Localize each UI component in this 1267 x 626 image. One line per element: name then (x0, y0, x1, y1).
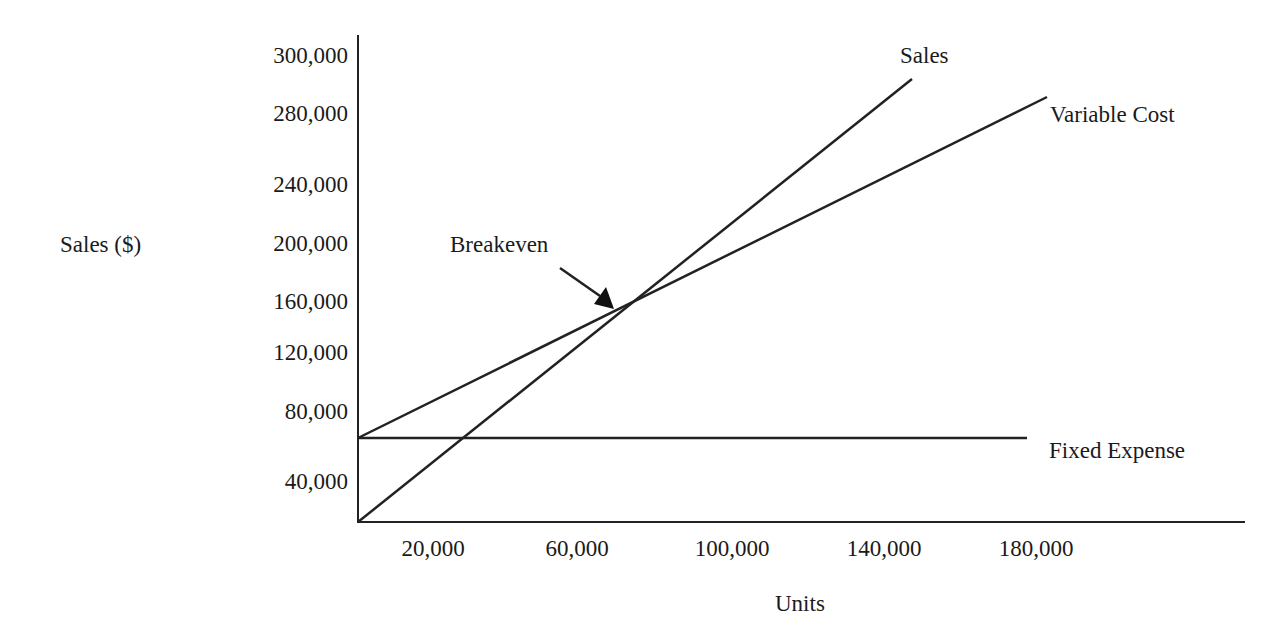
x-tick-label: 100,000 (695, 537, 770, 560)
fixed-expense-line-label: Fixed Expense (1049, 439, 1185, 462)
x-tick-label: 20,000 (401, 537, 464, 560)
variable-cost-line-label: Variable Cost (1050, 103, 1175, 126)
sales-line-label: Sales (900, 44, 949, 67)
x-axis-label: Units (775, 592, 825, 615)
y-tick-label: 300,000 (228, 44, 348, 67)
y-tick-label: 80,000 (228, 400, 348, 423)
x-tick-label: 180,000 (999, 537, 1074, 560)
y-tick-label: 40,000 (228, 470, 348, 493)
y-tick-label: 120,000 (228, 341, 348, 364)
y-tick-label: 280,000 (228, 102, 348, 125)
x-tick-label: 140,000 (847, 537, 922, 560)
y-tick-label: 200,000 (228, 232, 348, 255)
breakeven-arrow-shaft (560, 268, 600, 296)
x-tick-label: 60,000 (545, 537, 608, 560)
chart-plot-area (0, 0, 1267, 626)
y-tick-label: 160,000 (228, 290, 348, 313)
y-axis-label: Sales ($) (60, 233, 141, 256)
variable-cost-line (358, 97, 1047, 438)
breakeven-arrow-head-icon (594, 287, 614, 309)
y-tick-label: 240,000 (228, 173, 348, 196)
breakeven-annotation: Breakeven (450, 233, 548, 256)
